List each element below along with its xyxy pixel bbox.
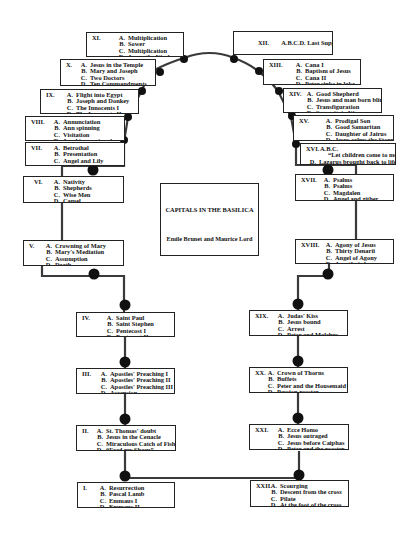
capital-box-XX: XX. A.Crown of Thorns B.Buffets C.Peter …	[249, 367, 348, 393]
capital-number: XII.	[258, 40, 269, 46]
capital-item: Samaritain Woman	[316, 109, 369, 113]
capital-box-XXII: XXII. A.Scourging B.Descent from the cro…	[250, 480, 349, 507]
capital-item: Jesus calms the Storm	[335, 136, 394, 141]
capital-item: Angel and zither	[333, 195, 378, 201]
capital-item: Camel	[63, 197, 81, 203]
capital-box-XIX: XIX. A.Judas' Kiss B.Jesus bound C.Arres…	[249, 310, 348, 336]
capital-item: Ascension	[110, 389, 137, 394]
capital-box-IX: IX. A.Flight into Egypt B.Joseph and Don…	[40, 89, 139, 114]
capital-item: “Feed my Sheep”	[106, 446, 154, 451]
capital-number: IX.	[46, 92, 55, 98]
capital-item: Dove pecking for food	[63, 163, 123, 166]
capital-box-IV: IV. A.Saint Paul B.Saint Stephen C.Pente…	[76, 312, 175, 337]
capital-number: XV.	[299, 118, 309, 124]
capital-number: VII.	[31, 145, 42, 151]
capital-number: XXI.	[255, 427, 268, 433]
capital-number: XIX.	[255, 313, 268, 319]
capital-number: V.	[29, 243, 34, 249]
capital-box-VIII: VIII. A.Annunciation B.Ann spinning C.Vi…	[25, 116, 125, 141]
capital-box-XIV: XIV. A.Good Shepherd B.Jesus and man bor…	[283, 88, 382, 113]
capital-box-XXI: XXI. A.Ecce Homo B.Jesus outraged C.Jesu…	[249, 424, 349, 450]
capital-item: Jesus, the Worker	[128, 53, 177, 57]
capital-number: XVI.	[306, 146, 319, 152]
authors: Emile Brunet and Maurice Lord	[161, 235, 258, 242]
capital-item: Emmaus II	[109, 503, 140, 508]
capital-number: VIII.	[31, 119, 45, 125]
capital-number: I.	[83, 485, 87, 491]
capital-item: A.B.C.D. Last Supper	[281, 40, 333, 46]
capital-box-XIII: XIII. A.Cana I B.Baptism of Jesus C.Cana…	[263, 59, 361, 85]
diagram-title: CAPITALS IN THE BASILICA	[161, 206, 258, 213]
capital-item: The Innocents II	[76, 110, 121, 114]
capital-number: XX.	[255, 370, 266, 376]
capital-item: Peter and the rooster	[287, 445, 344, 450]
capital-item: Joachim as vine-dresser	[63, 137, 125, 141]
capital-item: Peter and Malchus	[287, 331, 338, 336]
capital-box-V: V. A.Crowning of Mary B.Mary's Mediation…	[23, 240, 124, 266]
capital-box-XVI: XVI. A.B.C. “Let children come to me” D.…	[300, 143, 396, 165]
capital-number: X.	[66, 62, 72, 68]
capital-box-VII: VII. A.Betrothal B.Presentation C.Angel …	[25, 142, 125, 166]
capital-box-X: X. A.Jesus in the Temple B.Mary and Jose…	[60, 59, 156, 86]
capital-number: XXII.	[256, 483, 272, 489]
capital-box-XI: XI. A.Multiplication B.Sower C.Multiplic…	[86, 32, 184, 57]
capital-number: IV.	[82, 315, 90, 321]
capital-item: Apostles' sleep	[335, 260, 375, 264]
capital-box-XVII: XVII. A.Psalms B.Psalms C.Magdalen D.Ang…	[295, 174, 394, 201]
capital-number: XI.	[92, 35, 101, 41]
capital-number: XIV.	[289, 91, 302, 97]
capital-number: XIII.	[269, 62, 283, 68]
capital-number: II.	[82, 428, 89, 434]
capital-box-VI: VI. A.Nativity B.Shepherds C.Wise Men D.…	[23, 176, 124, 203]
capital-number: VI.	[34, 179, 43, 185]
capital-box-II: II. A.St. Thomas' doubt B.Jesus in the C…	[76, 425, 176, 451]
capital-box-XVIII: XVIII. A.Agony of Jesus B.Thirty Denarii…	[295, 239, 394, 264]
capital-box-XV: XV. A.Prodigal Son B.Good Samaritan C.Da…	[293, 115, 394, 141]
capital-number: XVII.	[301, 177, 317, 183]
capital-item: Ten Commandments	[90, 80, 147, 86]
capital-item: Peter sinks in lake	[305, 80, 355, 85]
capital-item: Passion rooster	[277, 388, 319, 393]
capital-box-III: III. A.Apostles' Preaching I B.Apostles'…	[76, 368, 175, 394]
capital-box-XII: XII. A.B.C.D. Last Supper	[233, 31, 333, 55]
capital-number: III.	[82, 371, 91, 377]
capital-item: Pentecost II	[116, 333, 148, 337]
capital-box-I: I. A.Resurrection B.Pascal Lamb C.Emmaus…	[77, 482, 175, 508]
capital-item: Death	[55, 261, 71, 266]
capital-item: At the foot of the cross	[280, 501, 341, 507]
capital-item: Lazarus brought back to life.	[319, 158, 396, 165]
capital-number: XVIII.	[301, 242, 319, 248]
title-box: CAPITALS IN THE BASILICA Emile Brunet an…	[160, 183, 259, 256]
